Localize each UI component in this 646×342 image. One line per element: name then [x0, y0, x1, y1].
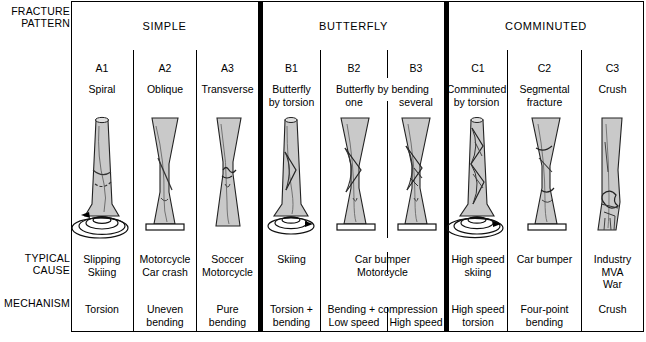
- mechanism-a2: Uneven bending: [134, 303, 196, 328]
- cause-b1: Skiing: [263, 253, 320, 266]
- mechanism-b2: Low speed: [321, 316, 387, 329]
- mechanism-b1: Torsion + bending: [263, 303, 320, 328]
- column-name-b2-b3-shared: Butterfly by bending: [321, 83, 444, 96]
- mechanism-c3: Crush: [582, 303, 643, 316]
- cause-a1: Slipping Skiing: [71, 253, 133, 278]
- mechanism-b3: High speed: [388, 316, 444, 329]
- column-code-b3: B3: [388, 62, 444, 74]
- column-name-c2: Segmental fracture: [508, 83, 581, 108]
- column-code-b2: B2: [321, 62, 387, 74]
- cause-b2-b3-shared: Car bumper Motorcycle: [321, 253, 444, 278]
- column-name-a2: Oblique: [134, 83, 196, 96]
- bone-illustration-c1-comminuted-torsion: [449, 112, 507, 238]
- bone-illustration-b2-butterfly-one: [321, 112, 387, 238]
- cause-a3: Soccer Motorcycle: [197, 253, 258, 278]
- row-label-mechanism: MECHANISM: [2, 297, 70, 309]
- frame-bottom-rule: [71, 331, 644, 332]
- cause-c1: High speed skiing: [449, 253, 507, 278]
- column-code-a3: A3: [197, 62, 258, 74]
- column-name-b3: several: [388, 96, 444, 109]
- fracture-pattern-classification-chart: FRACTURE PATTERN TYPICAL CAUSE MECHANISM…: [0, 0, 646, 342]
- mechanism-a3: Pure bending: [197, 303, 258, 328]
- column-code-b1: B1: [263, 62, 320, 74]
- bone-illustration-a3-transverse: [197, 112, 258, 238]
- column-code-a2: A2: [134, 62, 196, 74]
- bone-illustration-a1-spiral: [71, 112, 133, 238]
- column-name-c1: Comminuted by torsion: [446, 83, 507, 108]
- column-code-a1: A1: [71, 62, 133, 74]
- group-heading-butterfly: BUTTERFLY: [263, 20, 444, 32]
- column-code-c1: C1: [449, 62, 507, 74]
- mechanism-b2-b3-shared: Bending + compression: [321, 303, 444, 316]
- cause-a2: Motorcycle Car crash: [134, 253, 196, 278]
- row-label-fracture-pattern: FRACTURE PATTERN: [2, 5, 70, 29]
- column-name-b1: Butterfly by torsion: [263, 83, 320, 108]
- cause-c3: Industry MVA War: [582, 253, 643, 291]
- cause-c2: Car bumper: [508, 253, 581, 266]
- bone-illustration-b1-butterfly-torsion: [263, 112, 320, 238]
- mechanism-c2: Four-point bending: [508, 303, 581, 328]
- group-heading-comminuted: COMMINUTED: [449, 20, 643, 32]
- column-name-a3: Transverse: [197, 83, 258, 96]
- column-name-c3: Crush: [582, 83, 643, 96]
- column-code-c2: C2: [508, 62, 581, 74]
- frame-right-rule: [643, 2, 644, 332]
- row-label-typical-cause: TYPICAL CAUSE: [2, 252, 70, 276]
- column-name-a1: Spiral: [71, 83, 133, 96]
- mechanism-c1: High speed torsion: [449, 303, 507, 328]
- column-code-c3: C3: [582, 62, 643, 74]
- bone-illustration-b3-butterfly-several: [388, 112, 444, 238]
- mechanism-a1: Torsion: [71, 303, 133, 316]
- bone-illustration-c3-crush: [582, 112, 643, 238]
- bone-illustration-c2-segmental: [508, 112, 581, 238]
- bone-illustration-a2-oblique: [134, 112, 196, 238]
- frame-top-rule: [71, 1, 644, 2]
- group-heading-simple: SIMPLE: [71, 20, 258, 32]
- column-name-b2: one: [321, 96, 387, 109]
